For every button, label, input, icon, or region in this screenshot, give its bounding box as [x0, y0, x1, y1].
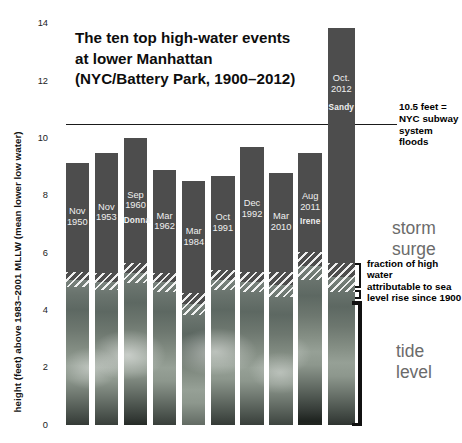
bar-tide-photo: [182, 304, 206, 425]
bar-tide-photo: [328, 277, 356, 425]
bar-sep-1960: Sep1960Donna: [124, 138, 148, 425]
high-water-events-chart: The ten top high-water events at lower M…: [0, 0, 462, 443]
bar-slr-hatch: [182, 293, 206, 314]
bar-slr-hatch: [124, 263, 148, 283]
bar-storm-name: Sandy: [328, 103, 356, 114]
bar-date-label: Mar1984: [182, 226, 206, 247]
bar-storm-name: Irene: [298, 217, 322, 228]
ref-label-line1: 10.5 feet =: [399, 101, 462, 113]
slr-annotation-line1: fraction of high water: [367, 258, 462, 281]
chart-title: The ten top high-water events at lower M…: [75, 28, 295, 90]
bar-storm-name: Donna: [124, 216, 148, 227]
bar-slr-hatch: [328, 263, 356, 292]
bar-tide-photo: [240, 282, 264, 425]
bar-slr-hatch: [66, 272, 90, 288]
bar-date-label: Mar2010: [269, 211, 293, 232]
chart-title-line1: The ten top high-water events: [75, 28, 295, 49]
bar-slr-hatch: [153, 273, 177, 292]
bar-oct-2012: Oct.2012Sandy: [328, 28, 356, 425]
bar-date-label: Nov1950: [66, 206, 90, 227]
bar-storm-surge: [328, 28, 356, 277]
bar-nov-1953: Nov1953: [95, 153, 119, 425]
bar-tide-photo: [153, 282, 177, 425]
bar-tide-photo: [124, 273, 148, 425]
bar-mar-2010: Mar2010: [269, 173, 293, 425]
bar-date-label: Aug2011Irene: [298, 191, 322, 228]
bar-date-label: Mar1962: [153, 211, 177, 232]
chart-title-line3: (NYC/Battery Park, 1900–2012): [75, 69, 295, 90]
ref-label-line2: NYC subway: [399, 113, 462, 125]
y-tick-12: 12: [26, 76, 48, 86]
slr-annotation-line2: attributable to sea: [367, 281, 462, 292]
y-tick-0: 0: [26, 420, 48, 430]
slr-annotation-line3: level rise since 1900: [367, 292, 462, 303]
storm-surge-annotation: storm surge: [392, 218, 462, 260]
subway-flood-reference-label: 10.5 feet = NYC subway system floods: [399, 101, 462, 148]
bar-aug-2011: Aug2011Irene: [298, 153, 322, 425]
bar-slr-hatch: [269, 272, 293, 298]
bar-tide-photo: [298, 266, 322, 425]
bar-slr-hatch: [240, 272, 264, 292]
bar-oct-1991: Oct1991: [211, 176, 235, 425]
bar-date-label: Oct.2012Sandy: [328, 73, 356, 114]
bar-slr-hatch: [211, 270, 235, 290]
bar-date-label: Nov1953: [95, 202, 119, 223]
tide-level-annotation: tide level: [396, 341, 462, 383]
ref-label-line3: system floods: [399, 125, 462, 149]
y-tick-10: 10: [26, 133, 48, 143]
bar-nov-1950: Nov1950: [66, 163, 90, 425]
y-tick-14: 14: [26, 18, 48, 28]
bar-date-label: Sep1960Donna: [124, 190, 148, 227]
y-tick-4: 4: [26, 305, 48, 315]
y-tick-2: 2: [26, 362, 48, 372]
sea-level-rise-annotation: fraction of high water attributable to s…: [367, 258, 462, 304]
bar-dec-1992: Dec1992: [240, 147, 264, 425]
y-axis-label: height (feet) above 1983–2001 MLLW (mean…: [12, 132, 23, 413]
bar-slr-hatch: [95, 273, 119, 290]
bar-mar-1984: Mar1984: [182, 181, 206, 425]
bar-tide-photo: [66, 280, 90, 425]
bar-slr-hatch: [298, 252, 322, 281]
bar-tide-photo: [211, 280, 235, 425]
bar-tide-photo: [269, 285, 293, 425]
y-tick-8: 8: [26, 190, 48, 200]
chart-title-line2: at lower Manhattan: [75, 49, 295, 70]
bar-mar-1962: Mar1962: [153, 170, 177, 425]
bar-tide-photo: [95, 282, 119, 425]
bar-date-label: Oct1991: [211, 212, 235, 233]
y-tick-6: 6: [26, 248, 48, 258]
bar-date-label: Dec1992: [240, 198, 264, 219]
